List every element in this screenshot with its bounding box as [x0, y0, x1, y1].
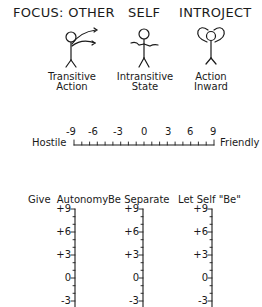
- diagram-drawings: [0, 0, 262, 307]
- tick-label: -6: [88, 126, 98, 137]
- tick-label: -3: [113, 126, 123, 137]
- vertical-scale-be-separate: [139, 209, 143, 307]
- tick-label: +6: [184, 226, 208, 237]
- tick-label: 3: [165, 126, 171, 137]
- stick-figure-arrows-inward-icon: [198, 28, 225, 64]
- tick-label: -9: [66, 126, 76, 137]
- tick-label: -3: [184, 295, 208, 306]
- tick-label: 0: [184, 272, 208, 283]
- tick-label: 9: [210, 126, 216, 137]
- caption-line: Inward: [190, 82, 232, 92]
- stick-figure-arms-relaxed-icon: [131, 29, 158, 67]
- stick-figure-arms-reaching-out-icon: [66, 28, 97, 67]
- tick-label: +9: [184, 203, 208, 214]
- figure-caption-action-inward: Action Inward: [190, 72, 232, 92]
- tick-label: 6: [187, 126, 193, 137]
- tick-label: +6: [115, 226, 139, 237]
- scale-label-friendly: Friendly: [220, 137, 259, 148]
- tick-label: -3: [115, 295, 139, 306]
- tick-label: +3: [47, 249, 71, 260]
- tick-label: 0: [141, 126, 147, 137]
- hostile-friendly-scale: [74, 140, 214, 145]
- tick-label: -3: [47, 295, 71, 306]
- caption-line: Action: [46, 82, 98, 92]
- tick-label: +3: [115, 249, 139, 260]
- vertical-scale-give-autonomy: [71, 209, 75, 307]
- figure-caption-transitive-action: Transitive Action: [46, 72, 98, 92]
- figure-caption-intransitive-state: Intransitive State: [116, 72, 174, 92]
- scale-label-hostile: Hostile: [32, 137, 66, 148]
- tick-label: +3: [184, 249, 208, 260]
- vertical-scale-let-self-be: [208, 209, 212, 307]
- tick-label: +6: [47, 226, 71, 237]
- tick-label: 0: [115, 272, 139, 283]
- caption-line: State: [116, 82, 174, 92]
- tick-label: 0: [47, 272, 71, 283]
- tick-label: +9: [47, 203, 71, 214]
- tick-label: +9: [115, 203, 139, 214]
